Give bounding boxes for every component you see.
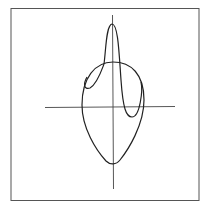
vertical-axis (113, 15, 114, 189)
polar-diagram (0, 0, 209, 206)
frame (11, 9, 199, 201)
horizontal-axis (45, 107, 175, 108)
